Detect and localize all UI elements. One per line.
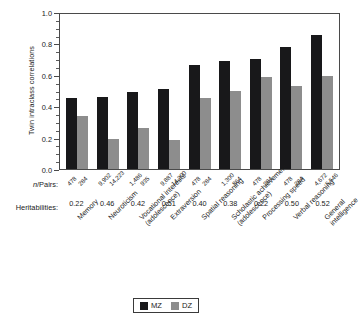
y-tick-label: 0.8 xyxy=(42,40,52,49)
npair-text: 935 xyxy=(138,175,150,187)
bar-group xyxy=(276,14,307,169)
npair-value-dz: 284 xyxy=(76,174,87,200)
y-tick-label: 0.6 xyxy=(42,71,52,80)
legend-swatch-mz xyxy=(140,302,148,310)
npair-text: 284 xyxy=(77,175,89,187)
npairs-label-rest: /Pairs: xyxy=(37,180,58,189)
legend-item-dz: DZ xyxy=(171,301,192,310)
category-group: Vocational interests(adolescence) xyxy=(123,212,154,290)
npair-value-dz: 935 xyxy=(138,174,149,200)
bar-mz xyxy=(97,97,108,169)
npairs-row-label: n/Pairs: xyxy=(33,180,58,189)
bar-mz xyxy=(311,35,322,169)
legend-label: DZ xyxy=(182,301,192,310)
npair-value-mz: 478 xyxy=(65,174,76,200)
bar-dz xyxy=(291,86,302,169)
plot-area xyxy=(59,13,340,170)
bar-dz xyxy=(77,116,88,169)
bar-mz xyxy=(158,89,169,169)
category-group: Generalintelligence xyxy=(307,212,338,290)
npairs-group: 9,90214,223 xyxy=(92,174,123,200)
bar-group xyxy=(245,14,276,169)
bar-dz xyxy=(108,139,119,169)
chart-legend: MZDZ xyxy=(133,298,199,313)
y-tick-label: 1.0 xyxy=(42,9,52,18)
bar-dz xyxy=(322,76,333,169)
npair-text: 284 xyxy=(200,175,212,187)
category-group: Verbal reasoning xyxy=(276,212,307,290)
npair-value-mz: 9,902 xyxy=(96,174,107,200)
bar-mz xyxy=(189,65,200,169)
bar-group xyxy=(184,14,215,169)
npair-value-dz: 284 xyxy=(200,174,211,200)
bar-group xyxy=(215,14,246,169)
y-tick-label: 0.4 xyxy=(42,103,52,112)
y-axis-ticks: 0.00.20.40.60.81.0 xyxy=(0,13,59,170)
category-group: Processing speed xyxy=(246,212,277,290)
y-tick-label: 0.2 xyxy=(42,134,52,143)
npair-value-dz: 14,223 xyxy=(107,174,118,200)
npairs-group: 478284 xyxy=(61,174,92,200)
bar-dz xyxy=(138,128,149,169)
category-group: Memory xyxy=(61,212,92,290)
y-tick-major xyxy=(54,170,59,171)
heritabilities-row-label: Heritabilities: xyxy=(16,203,58,212)
heritability-value: 0.46 xyxy=(100,199,114,208)
category-group: Extraversion xyxy=(153,212,184,290)
bar-dz xyxy=(261,77,272,169)
bar-group xyxy=(62,14,93,169)
legend-label: MZ xyxy=(151,301,162,310)
bar-dz xyxy=(169,140,180,169)
legend-swatch-dz xyxy=(171,302,179,310)
legend-item-mz: MZ xyxy=(140,301,162,310)
bar-mz xyxy=(127,92,138,169)
bar-group xyxy=(154,14,185,169)
bar-groups xyxy=(60,14,339,169)
heritability-value: 0.22 xyxy=(69,199,83,208)
category-group: Neuroticism xyxy=(92,212,123,290)
bar-mz xyxy=(219,61,230,169)
bar-mz xyxy=(250,59,261,169)
category-group: Spatial reasoning xyxy=(184,212,215,290)
bar-group xyxy=(123,14,154,169)
category-group: Scholastic achievement(adolescence) xyxy=(215,212,246,290)
bar-dz xyxy=(200,98,211,169)
bar-group xyxy=(307,14,338,169)
bar-dz xyxy=(230,91,241,169)
x-axis-category-labels: MemoryNeuroticismVocational interests(ad… xyxy=(59,212,340,290)
y-tick-label: 0.0 xyxy=(42,166,52,175)
bar-group xyxy=(93,14,124,169)
bar-mz xyxy=(66,98,77,169)
bar-mz xyxy=(280,47,291,169)
